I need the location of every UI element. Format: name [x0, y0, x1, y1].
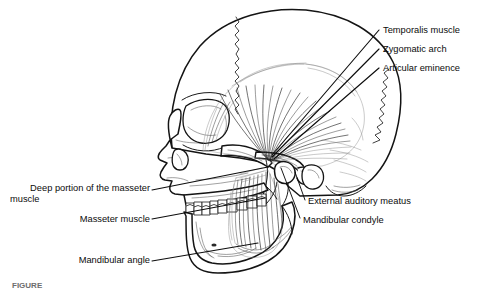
- label-deep-masseter-line1: Deep portion of the masseter: [30, 183, 150, 193]
- anatomical-figure: Temporalis muscle Zygomatic arch Articul…: [0, 0, 500, 289]
- skull-lateral-illustration: Temporalis muscle Zygomatic arch Articul…: [0, 0, 500, 289]
- label-external-auditory-meatus: External auditory meatus: [308, 196, 411, 206]
- external-auditory-meatus: [302, 165, 324, 189]
- label-mandibular-angle: Mandibular angle: [79, 255, 150, 265]
- label-temporalis-muscle: Temporalis muscle: [383, 25, 460, 35]
- nasal-aperture: [172, 149, 188, 170]
- label-zygomatic-arch: Zygomatic arch: [383, 44, 447, 54]
- figure-caption: FIGURE: [12, 281, 43, 289]
- label-mandibular-condyle: Mandibular condyle: [303, 215, 384, 225]
- label-masseter-muscle: Masseter muscle: [80, 214, 150, 224]
- label-deep-masseter-line2: muscle: [10, 194, 39, 204]
- mental-foramen: [211, 243, 216, 246]
- label-articular-eminence: Articular eminence: [383, 63, 460, 73]
